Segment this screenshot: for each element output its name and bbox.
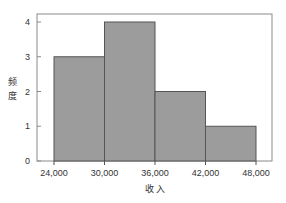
y-axis-label: 频度: [8, 76, 17, 101]
histogram-bar: [206, 126, 257, 161]
y-tick-label: 4: [25, 17, 30, 27]
y-tick-label: 2: [25, 87, 30, 97]
x-axis-label: 收 入: [145, 183, 166, 194]
x-tick-label: 48,000: [242, 168, 270, 178]
x-tick-label: 42,000: [192, 168, 220, 178]
x-tick-label: 24,000: [40, 168, 68, 178]
x-axis-ticks: 24,00030,00036,00042,00048,000: [40, 161, 270, 178]
y-tick-label: 1: [25, 121, 30, 131]
y-tick-label: 3: [25, 52, 30, 62]
y-tick-label: 0: [25, 156, 30, 166]
x-tick-label: 36,000: [141, 168, 169, 178]
histogram-chart: 01234 24,00030,00036,00042,00048,000 频度 …: [0, 0, 286, 203]
histogram-bar: [54, 57, 105, 161]
histogram-bar: [155, 92, 206, 162]
x-tick-label: 30,000: [91, 168, 119, 178]
histogram-bar: [105, 22, 156, 161]
